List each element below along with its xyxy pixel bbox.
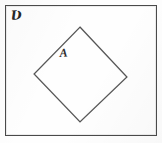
universal-set-rectangle (6, 6, 157, 136)
universal-set-rectangle-shadow (7, 7, 156, 135)
set-a-diamond-shadow (35, 28, 126, 121)
set-a-diamond (34, 27, 127, 122)
universal-set-label: Ʋ (10, 8, 22, 22)
set-diagram-figure: Ʋ A (0, 0, 162, 143)
set-a-label: A (59, 46, 68, 59)
diagram-canvas (0, 0, 162, 143)
